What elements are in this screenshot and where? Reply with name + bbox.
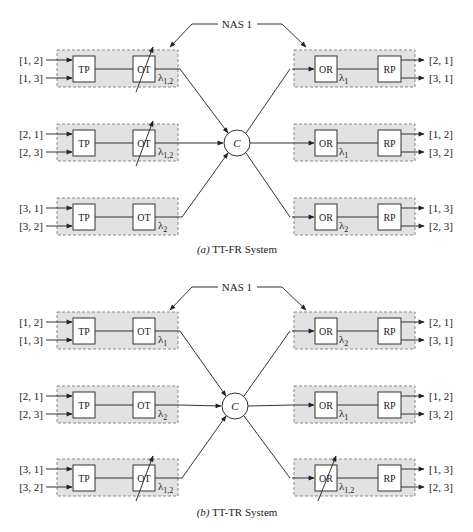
input-label: [1, 2]: [19, 54, 43, 66]
tp-label: TP: [78, 212, 90, 223]
input-label: [3, 1]: [19, 202, 43, 214]
input-label: [1, 2]: [19, 316, 43, 328]
diagram-a: [1, 2][1, 3]TPOTλ1,2[2, 1][2, 3]TPOTλ1,2…: [19, 18, 453, 256]
rp-label: RP: [383, 138, 396, 149]
input-label: [3, 2]: [19, 481, 43, 493]
output-label: [2, 3]: [429, 481, 453, 493]
coupler-node: C: [180, 331, 292, 478]
or-label: OR: [319, 212, 333, 223]
output-label: [1, 3]: [429, 463, 453, 475]
input-label: [2, 3]: [19, 408, 43, 420]
rp-label: RP: [383, 473, 396, 484]
optical-network-diagram: [1, 2][1, 3]TPOTλ1,2[2, 1][2, 3]TPOTλ1,2…: [0, 0, 473, 532]
output-label: [3, 2]: [429, 408, 453, 420]
receiver-node: ORλ1RP[2, 1][3, 1]: [292, 50, 453, 87]
receiver-node: ORλ2RP[1, 3][2, 3]: [292, 198, 453, 235]
rp-label: RP: [383, 400, 396, 411]
link-arrow: [180, 331, 226, 396]
nas-label: NAS 1: [222, 281, 252, 293]
input-label: [1, 3]: [19, 72, 43, 84]
ot-label: OT: [137, 400, 150, 411]
link-line: [248, 405, 292, 406]
figure-caption: (b) TT-TR System: [197, 506, 278, 519]
input-label: [3, 1]: [19, 463, 43, 475]
figure-caption: (a) TT-FR System: [197, 243, 278, 256]
link-arrow: [180, 153, 228, 217]
link-line: [246, 153, 290, 217]
output-label: [3, 1]: [429, 334, 453, 346]
or-label: OR: [319, 326, 333, 337]
nas-label: NAS 1: [222, 18, 252, 30]
output-label: [3, 1]: [429, 72, 453, 84]
transmitter-node: [1, 2][1, 3]TPOTλ1,2: [19, 47, 180, 92]
transmitter-node: [3, 1][3, 2]TPOTλ1,2: [19, 456, 180, 501]
nas-pointer-right: [257, 24, 306, 47]
or-label: OR: [319, 400, 333, 411]
input-label: [2, 1]: [19, 390, 43, 402]
output-label: [1, 3]: [429, 202, 453, 214]
rp-label: RP: [383, 326, 396, 337]
input-label: [3, 2]: [19, 220, 43, 232]
transmitter-node: [1, 2][1, 3]TPOTλ1: [19, 312, 180, 349]
tp-label: TP: [78, 400, 90, 411]
tp-label: TP: [78, 64, 90, 75]
link-arrow: [180, 416, 226, 478]
receiver-node: ORλ1,2RP[1, 3][2, 3]: [292, 456, 453, 501]
output-label: [2, 1]: [429, 316, 453, 328]
ot-label: OT: [137, 326, 150, 337]
or-label: OR: [319, 473, 333, 484]
coupler-node: C: [180, 69, 292, 217]
output-label: [2, 1]: [429, 54, 453, 66]
transmitter-node: [2, 1][2, 3]TPOTλ1,2: [19, 121, 180, 166]
link-arrow: [180, 69, 228, 133]
nas-callout: NAS 1: [170, 18, 306, 47]
tp-label: TP: [78, 138, 90, 149]
tp-label: TP: [78, 473, 90, 484]
ot-label: OT: [137, 212, 150, 223]
link-line: [244, 331, 290, 396]
receiver-node: ORλ1RP[1, 2][3, 2]: [292, 124, 453, 161]
receiver-node: ORλ2RP[2, 1][3, 1]: [292, 312, 453, 349]
link-arrow: [180, 405, 221, 406]
nas-pointer-left: [170, 287, 218, 310]
transmitter-node: [2, 1][2, 3]TPOTλ2: [19, 386, 180, 423]
transmitter-node: [3, 1][3, 2]TPOTλ2: [19, 198, 180, 235]
input-label: [2, 3]: [19, 146, 43, 158]
output-label: [3, 2]: [429, 146, 453, 158]
rp-label: RP: [383, 64, 396, 75]
output-label: [2, 3]: [429, 220, 453, 232]
rp-label: RP: [383, 212, 396, 223]
coupler-label: C: [231, 400, 239, 412]
input-label: [1, 3]: [19, 334, 43, 346]
input-label: [2, 1]: [19, 128, 43, 140]
receiver-node: ORλ1RP[1, 2][3, 2]: [292, 386, 453, 423]
nas-pointer-right: [257, 287, 306, 310]
tp-label: TP: [78, 326, 90, 337]
or-label: OR: [319, 64, 333, 75]
diagram-b: [1, 2][1, 3]TPOTλ1[2, 1][2, 3]TPOTλ2[3, …: [19, 281, 453, 519]
or-label: OR: [319, 138, 333, 149]
output-label: [1, 2]: [429, 390, 453, 402]
coupler-label: C: [233, 137, 241, 149]
nas-pointer-left: [170, 24, 218, 47]
link-line: [244, 416, 290, 478]
link-line: [246, 69, 290, 133]
output-label: [1, 2]: [429, 128, 453, 140]
nas-callout: NAS 1: [170, 281, 306, 310]
